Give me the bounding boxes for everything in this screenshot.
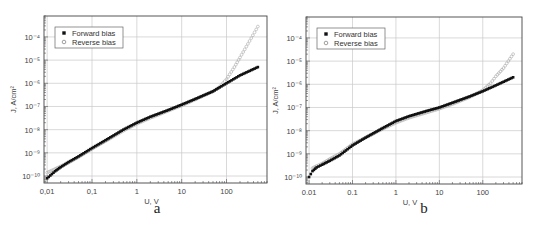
x-tick-label: 100 bbox=[477, 188, 490, 197]
panel-label-b: b bbox=[420, 200, 428, 217]
x-tick-label: 0.01 bbox=[302, 188, 317, 197]
y-tick-label: 10⁻⁸ bbox=[24, 126, 40, 135]
chart-a-svg: 0,010,111010010⁻¹⁰10⁻⁹10⁻⁸10⁻⁷10⁻⁶10⁻⁵10… bbox=[0, 0, 268, 230]
y-tick-label: 10⁻⁴ bbox=[24, 33, 40, 42]
x-tick-label: 1 bbox=[394, 188, 398, 197]
panel-a: 0,010,111010010⁻¹⁰10⁻⁹10⁻⁸10⁻⁷10⁻⁶10⁻⁵10… bbox=[0, 0, 268, 230]
panel-b: 0.010.111010010⁻¹⁰10⁻⁹10⁻⁸10⁻⁷10⁻⁶10⁻⁵10… bbox=[262, 0, 537, 230]
filled-square-marker-icon bbox=[324, 32, 327, 35]
x-tick-label: 0,01 bbox=[40, 187, 55, 196]
panel-label-a: a bbox=[154, 200, 161, 217]
y-tick-label: 10⁻⁴ bbox=[286, 34, 302, 43]
series-forward-bias bbox=[308, 76, 515, 178]
x-tick-label: 10 bbox=[178, 187, 186, 196]
legend-label: Forward bias bbox=[334, 30, 378, 39]
y-axis-title: J, A/cm² bbox=[271, 86, 280, 114]
y-tick-label: 10⁻⁶ bbox=[287, 80, 302, 89]
legend: Forward biasReverse bias bbox=[317, 28, 385, 49]
series-forward-bias bbox=[46, 66, 259, 180]
y-tick-label: 10⁻¹⁰ bbox=[284, 173, 302, 182]
x-tick-label: 100 bbox=[220, 187, 233, 196]
y-tick-label: 10⁻⁹ bbox=[286, 150, 302, 159]
x-tick-label: 0.1 bbox=[347, 188, 357, 197]
y-tick-label: 10⁻⁹ bbox=[24, 149, 40, 158]
chart-b-svg: 0.010.111010010⁻¹⁰10⁻⁹10⁻⁸10⁻⁷10⁻⁶10⁻⁵10… bbox=[262, 0, 537, 230]
y-tick-label: 10⁻⁸ bbox=[286, 127, 302, 136]
y-tick-label: 10⁻⁷ bbox=[25, 102, 40, 111]
legend-label: Forward bias bbox=[72, 29, 116, 38]
y-tick-label: 10⁻⁶ bbox=[25, 79, 40, 88]
x-tick-label: 0,1 bbox=[87, 187, 97, 196]
x-axis-title: U, V bbox=[403, 198, 418, 207]
y-tick-label: 10⁻⁵ bbox=[287, 57, 302, 66]
y-tick-label: 10⁻¹⁰ bbox=[22, 172, 40, 181]
filled-square-marker-icon bbox=[62, 31, 65, 34]
y-axis-title: J, A/cm² bbox=[9, 85, 18, 113]
legend-label: Reverse bias bbox=[72, 38, 116, 47]
y-tick-label: 10⁻⁵ bbox=[25, 56, 40, 65]
legend-label: Reverse bias bbox=[334, 39, 378, 48]
legend: Forward biasReverse bias bbox=[55, 27, 123, 48]
x-tick-label: 10 bbox=[435, 188, 443, 197]
y-tick-label: 10⁻⁷ bbox=[287, 103, 302, 112]
x-tick-label: 1 bbox=[135, 187, 139, 196]
